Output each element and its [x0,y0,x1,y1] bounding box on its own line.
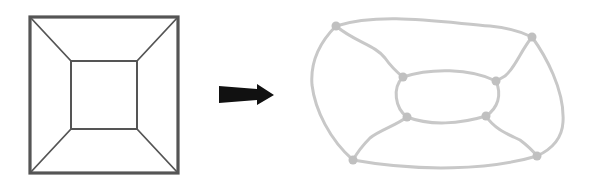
arrow-icon [219,84,274,105]
node [492,77,501,86]
spoke-tl [336,26,403,77]
edge-br [137,129,178,173]
node [332,22,341,31]
spoke-bl [353,117,407,160]
spoke-br [486,116,537,156]
node [403,113,412,122]
edge-tl [30,17,71,61]
edge-bl [30,129,71,173]
node [482,112,491,121]
node [349,156,358,165]
curved-graph [312,19,563,168]
edge-tr [137,17,178,61]
diagram-canvas [0,0,596,187]
node [533,152,542,161]
node [528,33,537,42]
square-graph [30,17,178,173]
spoke-tr [496,37,532,81]
node [399,73,408,82]
inner-square [71,61,137,129]
